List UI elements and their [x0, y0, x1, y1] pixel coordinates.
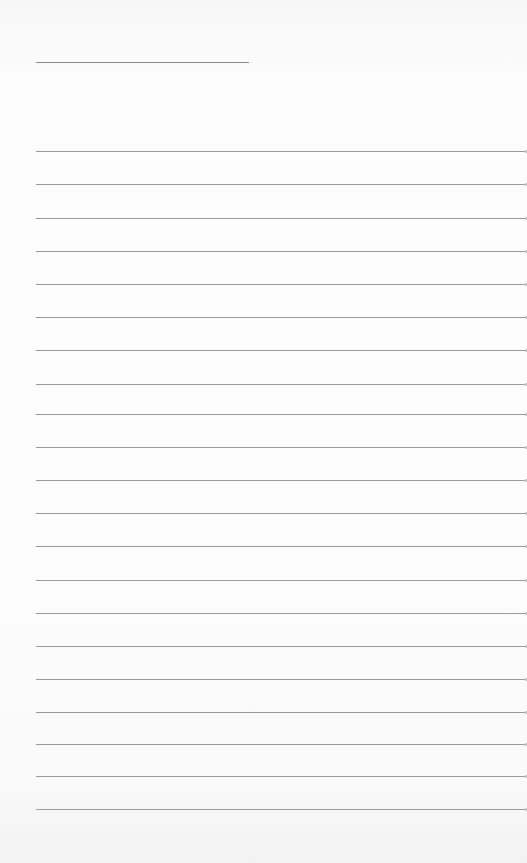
lined-paper-page	[0, 0, 527, 863]
ruled-line	[36, 744, 525, 745]
ruled-line	[36, 184, 525, 185]
ruled-line	[36, 447, 525, 448]
ruled-line	[36, 546, 525, 547]
ruled-line	[36, 613, 525, 614]
ruled-line	[36, 414, 525, 415]
ruled-line	[36, 809, 525, 810]
ruled-line	[36, 284, 525, 285]
ruled-line	[36, 251, 525, 252]
ruled-line	[36, 384, 525, 385]
ruled-line	[36, 317, 525, 318]
ruled-line	[36, 480, 525, 481]
ruled-line	[36, 646, 525, 647]
ruled-line	[36, 712, 525, 713]
ruled-line	[36, 776, 525, 777]
ruled-lines-container	[36, 0, 527, 863]
ruled-line	[36, 350, 525, 351]
ruled-line	[36, 513, 525, 514]
ruled-line	[36, 679, 525, 680]
ruled-line	[36, 580, 525, 581]
ruled-line	[36, 218, 525, 219]
ruled-line	[36, 151, 525, 152]
